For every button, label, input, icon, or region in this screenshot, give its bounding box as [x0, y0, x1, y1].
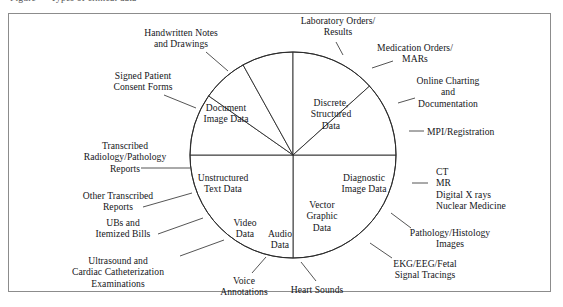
figure-caption-clipped: Figure — Types of clinical data: [10, 0, 550, 4]
callout-label-ct-mr-digital-xrays-nuclear-medicine: CT MR Digital X rays Nuclear Medicine: [436, 166, 563, 212]
wedge-label-vector-graphic-data: Vector Graphic Data: [262, 199, 382, 233]
callout-label-signed-patient-consent-forms: Signed Patient Consent Forms: [73, 70, 213, 93]
callout-label-transcribed-radiology-pathology-reports: Transcribed Radiology/Pathology Reports: [55, 140, 195, 174]
callout-label-ubs-and-itemized-bills: UBs and Itemized Bills: [53, 217, 193, 240]
wedge-label-document-image-data: Document Image Data: [166, 102, 286, 125]
wedge-label-diagnostic-image-data: Diagnostic Image Data: [304, 172, 424, 195]
callout-label-heart-sounds: Heart Sounds: [247, 284, 387, 295]
figure-root: Figure — Types of clinical data Discrete…: [0, 0, 563, 307]
callout-label-pathology-histology-images: Pathology/Histology Images: [380, 227, 520, 250]
callout-label-medication-orders-mars: Medication Orders/ MARs: [345, 42, 485, 65]
callout-label-other-transcribed-reports: Other Transcribed Reports: [48, 190, 188, 213]
callout-label-handwritten-notes-and-drawings: Handwritten Notes and Drawings: [111, 27, 251, 50]
wedge-label-discrete-structured-data: Discrete, Structured Data: [271, 97, 391, 131]
callout-label-laboratory-orders-results: Laboratory Orders/ Results: [268, 15, 408, 38]
callout-label-online-charting-and-documentation: Online Charting and Documentation: [378, 75, 518, 109]
callout-label-ekg-eeg-fetal-signal-tracings: EKG/EEG/Fetal Signal Tracings: [355, 258, 495, 281]
callout-label-ultrasound-and-cardiac-catheterization-examinations: Ultrasound and Cardiac Catheterization E…: [48, 255, 188, 289]
callout-label-mpi-registration: MPI/Registration: [427, 126, 557, 137]
